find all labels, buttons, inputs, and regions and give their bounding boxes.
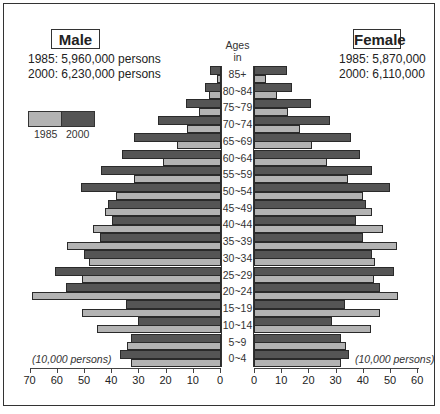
male-1985-bar xyxy=(32,292,221,300)
female-1985-bar xyxy=(254,275,374,283)
male-unit-label: (10,000 persons) xyxy=(32,353,111,365)
right-axis-tick xyxy=(336,368,337,373)
age-group-label: 5~9 xyxy=(221,336,254,348)
left-axis-tick xyxy=(84,368,85,373)
male-total-1985: 1985: 5,960,000 persons xyxy=(28,52,161,67)
right-axis-tick-label: 20 xyxy=(298,374,318,386)
female-1985-bar xyxy=(254,208,372,216)
left-axis-tick-label: 50 xyxy=(74,374,94,386)
female-1985-bar xyxy=(254,91,277,99)
age-group-label: 25~29 xyxy=(221,269,254,281)
age-group-label: 45~49 xyxy=(221,202,254,214)
left-axis-tick-label: 20 xyxy=(156,374,176,386)
male-1985-bar xyxy=(97,325,221,333)
left-axis-tick-label: 70 xyxy=(20,374,40,386)
male-1985-bar xyxy=(116,192,221,200)
male-totals: 1985: 5,960,000 persons 2000: 6,230,000 … xyxy=(28,52,161,82)
right-axis-tick-label: 30 xyxy=(326,374,346,386)
age-group-label: 80~84 xyxy=(221,85,254,97)
legend-swatch-1985 xyxy=(28,111,62,127)
left-axis-tick xyxy=(166,368,167,373)
female-total-1985: 1985: 5,870,000 xyxy=(339,52,426,67)
age-group-label: 0~4 xyxy=(221,352,254,364)
male-1985-bar xyxy=(67,242,221,250)
age-group-label: 40~44 xyxy=(221,218,254,230)
female-1985-bar xyxy=(254,342,346,350)
male-1985-bar xyxy=(93,225,221,233)
female-1985-bar xyxy=(254,325,371,333)
age-group-label: 85+ xyxy=(221,68,254,80)
female-totals: 1985: 5,870,000 2000: 6,110,000 xyxy=(339,52,426,82)
left-axis-tick xyxy=(57,368,58,373)
age-group-label: 50~54 xyxy=(221,185,254,197)
right-axis-tick xyxy=(390,368,391,373)
right-axis-tick-label: 50 xyxy=(380,374,400,386)
age-group-label: 55~59 xyxy=(221,168,254,180)
female-title: Female xyxy=(353,29,401,49)
legend-label-2000: 2000 xyxy=(66,128,89,140)
age-group-label: 75~79 xyxy=(221,101,254,113)
left-axis-tick xyxy=(111,368,112,373)
female-1985-bar xyxy=(254,292,398,300)
male-1985-bar xyxy=(127,342,221,350)
age-group-label: 30~34 xyxy=(221,252,254,264)
age-group-label: 15~19 xyxy=(221,302,254,314)
female-unit-label: (10,000 persons) xyxy=(355,353,434,365)
age-group-label: 70~74 xyxy=(221,118,254,130)
right-axis-tick xyxy=(363,368,364,373)
left-axis-tick xyxy=(138,368,139,373)
left-axis-tick-label: 40 xyxy=(101,374,121,386)
right-axis-tick-label: 10 xyxy=(271,374,291,386)
left-axis-tick-label: 0 xyxy=(210,374,230,386)
male-1985-bar xyxy=(134,175,221,183)
male-1985-bar xyxy=(163,158,221,166)
left-axis-tick xyxy=(30,368,31,373)
right-axis-tick-label: 40 xyxy=(353,374,373,386)
female-1985-bar xyxy=(254,141,312,149)
right-axis-tick xyxy=(308,368,309,373)
male-total-2000: 2000: 6,230,000 persons xyxy=(28,67,161,82)
female-1985-bar xyxy=(254,192,363,200)
right-axis-tick-label: 0 xyxy=(244,374,264,386)
female-1985-bar xyxy=(254,258,375,266)
male-1985-bar xyxy=(177,141,221,149)
age-group-label: 65~69 xyxy=(221,135,254,147)
left-axis-tick-label: 10 xyxy=(183,374,203,386)
left-axis-tick-label: 60 xyxy=(47,374,67,386)
right-axis-tick xyxy=(281,368,282,373)
female-total-2000: 2000: 6,110,000 xyxy=(339,67,426,82)
left-axis-tick-label: 30 xyxy=(128,374,148,386)
left-axis-tick xyxy=(193,368,194,373)
age-group-label: 60~64 xyxy=(221,152,254,164)
female-1985-bar xyxy=(254,225,383,233)
male-1985-bar xyxy=(82,275,221,283)
female-1985-bar xyxy=(254,125,300,133)
female-1985-bar xyxy=(254,359,341,367)
male-1985-bar xyxy=(82,309,221,317)
age-group-label: 35~39 xyxy=(221,235,254,247)
right-axis-tick xyxy=(417,368,418,373)
left-axis-tick xyxy=(220,368,221,373)
male-1985-bar xyxy=(105,208,221,216)
male-1985-bar xyxy=(199,108,221,116)
age-group-label: 20~24 xyxy=(221,285,254,297)
female-1985-bar xyxy=(254,309,380,317)
male-1985-bar xyxy=(131,359,221,367)
legend-swatch-2000 xyxy=(61,111,95,127)
female-1985-bar xyxy=(254,108,288,116)
male-title: Male xyxy=(51,29,100,49)
right-axis-tick xyxy=(254,368,255,373)
female-1985-bar xyxy=(254,242,397,250)
ages-header-line1: Ages xyxy=(221,39,254,51)
male-1985-bar xyxy=(209,91,221,99)
female-1985-bar xyxy=(254,175,348,183)
female-1985-bar xyxy=(254,158,327,166)
female-1985-bar xyxy=(254,75,266,83)
age-group-label: 10~14 xyxy=(221,319,254,331)
legend-label-1985: 1985 xyxy=(34,128,57,140)
right-axis-tick-label: 60 xyxy=(407,374,427,386)
male-1985-bar xyxy=(89,258,221,266)
male-1985-bar xyxy=(187,125,221,133)
